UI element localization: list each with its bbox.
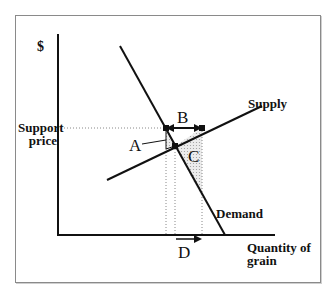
- point-equilibrium: [172, 143, 178, 149]
- region-b-label: B: [177, 109, 188, 126]
- supply-label: Supply: [248, 97, 287, 110]
- x-axis-label-2: grain: [247, 254, 277, 267]
- point-supply-at-support: [199, 125, 205, 131]
- region-a-label: A: [129, 137, 141, 154]
- region-d-label: D: [178, 244, 190, 261]
- region-c-label: C: [188, 148, 199, 165]
- demand-label: Demand: [216, 207, 263, 220]
- y-axis-label: $: [37, 38, 44, 55]
- point-demand-at-support: [163, 125, 169, 131]
- support-price-label-2: price: [18, 134, 57, 147]
- label-a-pointer: [142, 140, 166, 144]
